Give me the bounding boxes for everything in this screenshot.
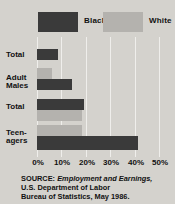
bar-black-total-2 [37,99,84,110]
group-label-adult-males: Adult Males [6,74,38,90]
legend-swatch-black [38,12,78,32]
x-tick-4: 40% [128,158,144,167]
x-axis: 0% 10% 20% 30% 40% 50% [0,158,175,170]
group-label-total-2: Total [6,103,36,111]
source-publication: Employment and Earnings, [57,174,152,183]
source-note: SOURCE: Employment and Earnings, U.S. De… [21,174,173,202]
group-label-teenagers: Teen- agers [6,129,40,145]
bar-black-teenagers [37,136,138,150]
group-label-total-1: Total [6,51,36,59]
x-tick-2: 20% [79,158,95,167]
x-tick-1: 10% [54,158,70,167]
x-tick-0: 0% [32,158,44,167]
source-line-2: U.S. Department of Labor [21,183,173,192]
bar-white-teenagers [37,125,82,136]
chart-legend: Black White [0,12,175,36]
bar-white-adult-males [37,68,52,79]
unemployment-bar-chart: Black White Total Adult Males Total Teen… [0,0,175,204]
bar-black-adult-males [37,79,72,90]
gridline [159,37,160,157]
bar-black-total-1 [37,49,58,60]
x-tick-5: 50% [152,158,168,167]
source-line-1: SOURCE: Employment and Earnings, [21,174,173,183]
x-tick-3: 30% [103,158,119,167]
source-prefix: SOURCE: [21,174,57,183]
legend-label-white: White [149,16,172,25]
bar-white-total-2 [37,110,82,121]
plot-area: Total Adult Males Total Teen- agers [0,37,175,157]
source-line-3: Bureau of Statistics, May 1986. [21,192,173,201]
legend-swatch-white [103,12,143,32]
